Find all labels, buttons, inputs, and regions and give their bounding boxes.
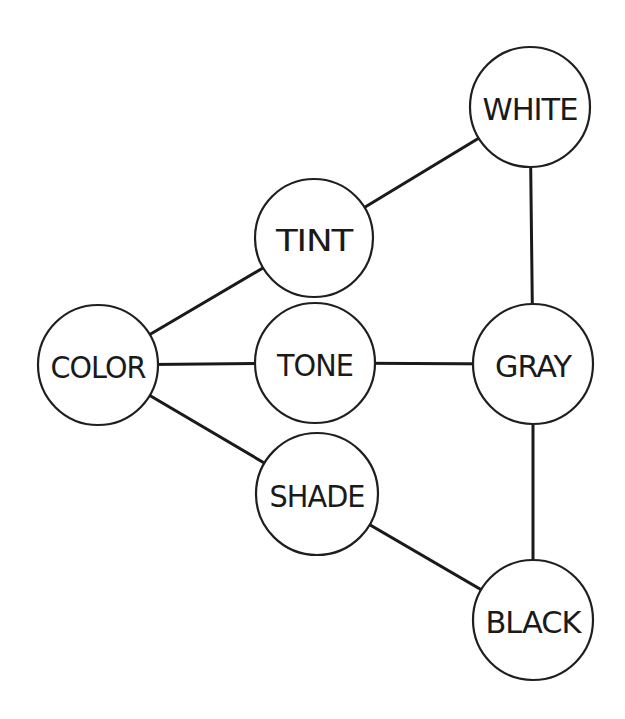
node-tint: TINT: [255, 179, 373, 297]
node-label: SHADE: [270, 479, 365, 514]
node-color: COLOR: [38, 305, 158, 425]
node-label: GRAY: [495, 349, 573, 384]
node-label: BLACK: [486, 605, 583, 640]
node-black: BLACK: [473, 560, 593, 680]
node-tone: TONE: [255, 303, 375, 423]
node-label: WHITE: [483, 92, 578, 127]
node-label: COLOR: [51, 350, 146, 385]
node-label: TONE: [276, 348, 353, 383]
node-label: TINT: [275, 223, 354, 258]
node-shade: SHADE: [256, 433, 378, 555]
color-relationship-diagram: COLORTINTTONESHADEWHITEGRAYBLACK: [0, 0, 625, 719]
node-gray: GRAY: [473, 304, 593, 424]
nodes-layer: COLORTINTTONESHADEWHITEGRAYBLACK: [38, 47, 593, 680]
node-white: WHITE: [470, 47, 590, 167]
